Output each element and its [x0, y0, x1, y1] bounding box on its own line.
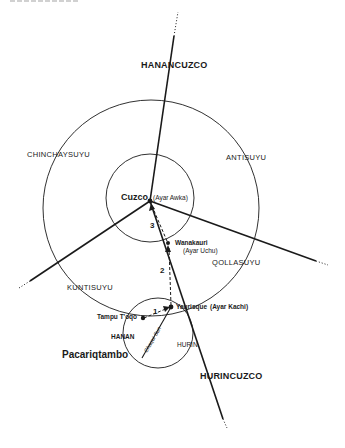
- tampu-toqo-label: Tampu T'oqo: [97, 313, 137, 321]
- hanancuzco-line-dotted: [174, 12, 178, 36]
- wanakauri-point: [166, 241, 170, 245]
- wanakauri-label: Wanakauri: [175, 239, 208, 246]
- hurincuzco-label: HURINCUZCO: [200, 371, 263, 381]
- hurincuzco-line-dotted: [223, 419, 227, 428]
- yaurisque-ayar-label: (Ayar Kachi): [210, 303, 248, 311]
- route-step-3: 3: [150, 221, 155, 230]
- qollasuyu-label: QOLLASUYU: [212, 258, 261, 267]
- chinchaysuyu-label: CHINCHAYSUYU: [27, 150, 90, 159]
- qollasuyu-line-dotted: [316, 261, 328, 265]
- route-step-2: 2: [160, 266, 165, 275]
- hanancuzco-label: HANANCUZCO: [141, 60, 208, 70]
- inca-cosmology-diagram: HANANCUZCO HURINCUZCO CHINCHAYSUYU ANTIS…: [0, 0, 345, 448]
- route-step-1: 1: [153, 307, 158, 316]
- hurin-label: HURIN: [177, 341, 198, 348]
- route-arrow-3: [149, 203, 155, 211]
- chaqui-sun-label: Chaqui Sun: [143, 326, 163, 354]
- yaurisque-label: Yaurisque: [176, 303, 207, 311]
- pacariqtambo-label: Pacariqtambo: [62, 349, 128, 360]
- antisuyu-label: ANTISUYU: [226, 153, 266, 162]
- cuzco-ayar-label: (Ayar Awka): [153, 194, 188, 202]
- tampu-toqo-point: [141, 316, 145, 320]
- wanakauri-ayar-label: (Ayar Uchu): [183, 247, 218, 255]
- kuntisuyu-line-dotted: [19, 281, 30, 288]
- hurincuzco-line: [150, 201, 223, 419]
- kuntisuyu-label: KUNTISUYU: [67, 283, 113, 292]
- qollasuyu-line: [150, 201, 316, 261]
- cuzco-point: [148, 199, 153, 204]
- hanan-label: HANAN: [111, 333, 135, 340]
- yaurisque-point: [169, 305, 174, 310]
- cuzco-label: Cuzco: [121, 192, 149, 202]
